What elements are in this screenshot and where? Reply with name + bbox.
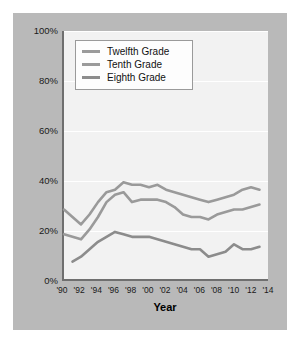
- x-axis-tick-label: '04: [177, 285, 188, 295]
- legend-label: Tenth Grade: [107, 58, 162, 71]
- x-axis-tick-label: '92: [74, 285, 85, 295]
- y-axis-tick-label: 60%: [14, 126, 58, 136]
- series-line: [72, 232, 259, 262]
- y-axis-tick-label: 40%: [14, 176, 58, 186]
- series-line: [64, 192, 260, 239]
- x-axis-tick-label: '10: [228, 285, 239, 295]
- legend-color-swatch: [82, 76, 100, 79]
- series-line: [64, 182, 260, 224]
- y-axis-tick-label: 0%: [14, 276, 58, 286]
- y-axis-tick-label: 80%: [14, 76, 58, 86]
- y-axis: 100%80%60%40%20%0%: [13, 31, 58, 281]
- legend-item: Tenth Grade: [82, 58, 186, 71]
- chart-legend: Twelfth GradeTenth GradeEighth Grade: [75, 40, 193, 90]
- legend-label: Eighth Grade: [107, 71, 166, 84]
- legend-color-swatch: [82, 63, 100, 66]
- x-axis-tick-label: '02: [159, 285, 170, 295]
- x-axis: '90'92'94'96'98'00'02'04'06'08'10'12'14: [62, 285, 268, 299]
- y-axis-tick-label: 20%: [14, 226, 58, 236]
- chart-panel: 100%80%60%40%20%0% '90'92'94'96'98'00'02…: [13, 13, 287, 330]
- x-axis-tick-label: '98: [125, 285, 136, 295]
- x-axis-tick-label: '94: [91, 285, 102, 295]
- x-axis-tick-label: '14: [262, 285, 273, 295]
- x-axis-tick-label: '96: [108, 285, 119, 295]
- x-axis-title: Year: [62, 301, 268, 313]
- y-axis-tick-label: 100%: [14, 26, 58, 36]
- legend-item: Twelfth Grade: [82, 45, 186, 58]
- line-chart-figure: 100%80%60%40%20%0% '90'92'94'96'98'00'02…: [13, 13, 287, 330]
- x-axis-tick-label: '00: [142, 285, 153, 295]
- x-axis-tick-label: '08: [211, 285, 222, 295]
- x-axis-tick-label: '90: [56, 285, 67, 295]
- x-axis-tick-label: '06: [194, 285, 205, 295]
- legend-color-swatch: [82, 50, 100, 53]
- legend-item: Eighth Grade: [82, 71, 186, 84]
- legend-label: Twelfth Grade: [107, 45, 169, 58]
- x-axis-tick-label: '12: [245, 285, 256, 295]
